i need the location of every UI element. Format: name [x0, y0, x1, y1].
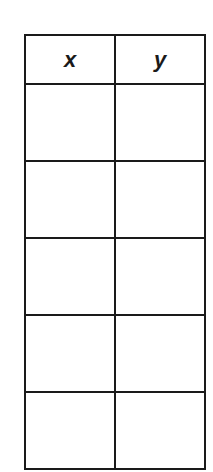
header-x: x — [25, 35, 115, 84]
cell-x[interactable] — [25, 392, 115, 469]
cell-y[interactable] — [115, 161, 205, 238]
cell-x[interactable] — [25, 238, 115, 315]
table-row — [25, 84, 205, 161]
table-row — [25, 315, 205, 392]
header-y: y — [115, 35, 205, 84]
xy-table-container: x y — [24, 34, 206, 470]
cell-y[interactable] — [115, 238, 205, 315]
cell-y[interactable] — [115, 315, 205, 392]
cell-y[interactable] — [115, 392, 205, 469]
cell-x[interactable] — [25, 84, 115, 161]
header-row: x y — [25, 35, 205, 84]
table-row — [25, 392, 205, 469]
cell-x[interactable] — [25, 161, 115, 238]
cell-y[interactable] — [115, 84, 205, 161]
xy-table: x y — [24, 34, 206, 470]
table-row — [25, 161, 205, 238]
cell-x[interactable] — [25, 315, 115, 392]
table-row — [25, 238, 205, 315]
